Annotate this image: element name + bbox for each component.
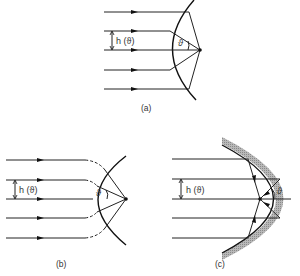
focal-point-c <box>258 197 262 201</box>
angle-arc-b <box>106 190 108 199</box>
height-label-a: h (ϑ) <box>116 36 134 46</box>
caption-c: (c) <box>215 259 225 269</box>
panel-c: h (ϑ) ϑ (c) <box>172 137 291 269</box>
incoming-rays-b <box>6 158 93 240</box>
angle-arc-a <box>188 41 189 50</box>
panel-a: h (ϑ) ϑ (a) <box>104 0 202 113</box>
caption-b: (b) <box>56 259 67 269</box>
focal-point-b <box>124 197 128 201</box>
angle-label-b: ϑ <box>96 188 102 198</box>
panel-b: h (ϑ) ϑ (b) <box>6 156 128 269</box>
height-label-b: h (ϑ) <box>19 185 37 195</box>
converging-rays-a <box>164 12 202 89</box>
height-label-c: h (ϑ) <box>186 185 204 195</box>
focal-point-a <box>198 48 202 52</box>
incoming-rays-c <box>172 159 291 238</box>
caption-a: (a) <box>141 103 152 113</box>
converging-rays-b <box>97 170 128 228</box>
